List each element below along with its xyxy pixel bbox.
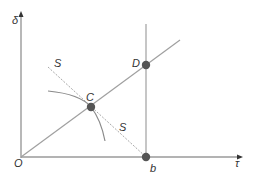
point-D-label: D bbox=[132, 57, 140, 69]
point-C-label: C bbox=[86, 91, 94, 103]
origin-label: O bbox=[14, 157, 23, 169]
diagram-canvas: δ τ O C D b S S bbox=[0, 0, 253, 178]
point-b bbox=[142, 153, 150, 161]
y-axis-label: δ bbox=[12, 14, 19, 26]
s-line bbox=[48, 67, 146, 157]
s-line-upper-label: S bbox=[54, 57, 62, 69]
point-D bbox=[142, 61, 150, 69]
s-line-lower-label: S bbox=[119, 121, 127, 133]
ray-line-OD bbox=[21, 40, 180, 157]
y-axis-arrow-icon bbox=[19, 11, 24, 17]
point-b-label: b bbox=[150, 162, 156, 174]
x-axis-label: τ bbox=[235, 157, 240, 169]
point-C bbox=[87, 103, 95, 111]
diagram-svg: δ τ O C D b S S bbox=[0, 0, 253, 178]
